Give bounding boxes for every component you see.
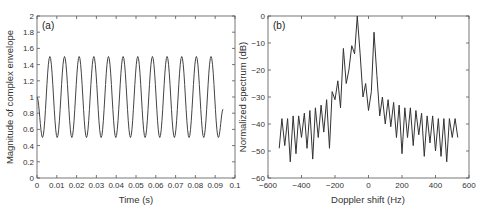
x-tick-label: 0.08: [188, 181, 204, 190]
x-tick-label: 0.06: [148, 181, 164, 190]
y-tick-label: −30: [251, 93, 265, 102]
x-tick-label: 0.05: [128, 181, 144, 190]
x-tick-label: −600: [259, 181, 278, 190]
x-tick-label: 600: [462, 181, 476, 190]
x-tick-label: 0: [35, 181, 40, 190]
x-tick-label: −200: [326, 181, 345, 190]
y-tick-label: 0: [261, 12, 266, 21]
chart-panel-a: 00.20.40.60.811.21.41.61.82 00.010.020.0…: [4, 12, 241, 205]
y-tick-label: 0.8: [23, 109, 35, 118]
x-tick-label: 400: [429, 181, 443, 190]
y-axis-ticks-a: 00.20.40.60.811.21.41.61.82: [23, 12, 235, 183]
y-tick-label: −40: [251, 120, 265, 129]
y-tick-label: −50: [251, 147, 265, 156]
x-tick-label: 0.01: [49, 181, 65, 190]
y-tick-label: 0.6: [23, 125, 35, 134]
x-tick-label: −400: [292, 181, 311, 190]
x-tick-label: 0.09: [207, 181, 223, 190]
y-tick-label: 1.8: [23, 28, 35, 37]
x-axis-label-a: Time (s): [119, 194, 153, 205]
x-tick-label: 0.04: [108, 181, 124, 190]
y-axis-ticks-b: −60−50−40−30−20−100: [251, 12, 469, 183]
x-tick-label: 0.07: [168, 181, 184, 190]
chart-panel-b: −60−50−40−30−20−100 −600−400−20002004006…: [237, 12, 476, 205]
y-axis-label-b: Normalized spectrum (dB): [237, 42, 248, 152]
y-tick-label: 1.4: [23, 61, 35, 70]
y-tick-label: −20: [251, 66, 265, 75]
panel-label-b: (b): [273, 20, 285, 31]
y-tick-label: 1.6: [23, 44, 35, 53]
y-tick-label: 0.2: [23, 158, 35, 167]
x-tick-label: 0: [366, 181, 371, 190]
x-tick-label: 200: [395, 181, 409, 190]
spectrum-line: [279, 16, 458, 162]
y-axis-label-a: Magnitude of complex envelope: [4, 30, 15, 164]
panel-label-a: (a): [42, 20, 54, 31]
y-tick-label: 1.2: [23, 77, 35, 86]
x-axis-ticks-a: 00.010.020.030.040.050.060.070.080.090.1: [35, 16, 241, 190]
y-tick-label: 2: [30, 12, 35, 21]
plot-area-b: [268, 16, 469, 178]
y-tick-label: −10: [251, 39, 265, 48]
x-tick-label: 0.02: [69, 181, 85, 190]
envelope-line: [37, 57, 223, 138]
figure: 00.20.40.60.811.21.41.61.82 00.010.020.0…: [0, 0, 482, 211]
y-tick-label: 0.4: [23, 142, 35, 151]
x-axis-label-b: Doppler shift (Hz): [331, 194, 405, 205]
x-tick-label: 0.03: [89, 181, 105, 190]
plot-area-a: [37, 16, 235, 178]
y-tick-label: 1: [30, 93, 35, 102]
x-tick-label: 0.1: [229, 181, 241, 190]
